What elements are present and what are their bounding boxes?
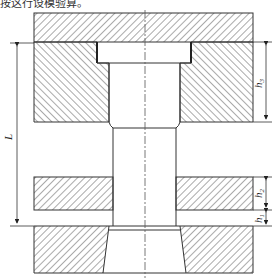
middle-plate [34, 177, 253, 210]
dimension-label-h1: h1 [252, 214, 266, 223]
die-cross-section-diagram: L h3 h2 h1 [0, 0, 274, 280]
top-plate [34, 13, 253, 42]
dimension-label-L: L [2, 134, 14, 141]
upper-die [34, 42, 253, 122]
dimension-label-h3: h3 [252, 79, 266, 89]
dimension-label-h2: h2 [252, 189, 266, 199]
lower-die [34, 226, 253, 273]
